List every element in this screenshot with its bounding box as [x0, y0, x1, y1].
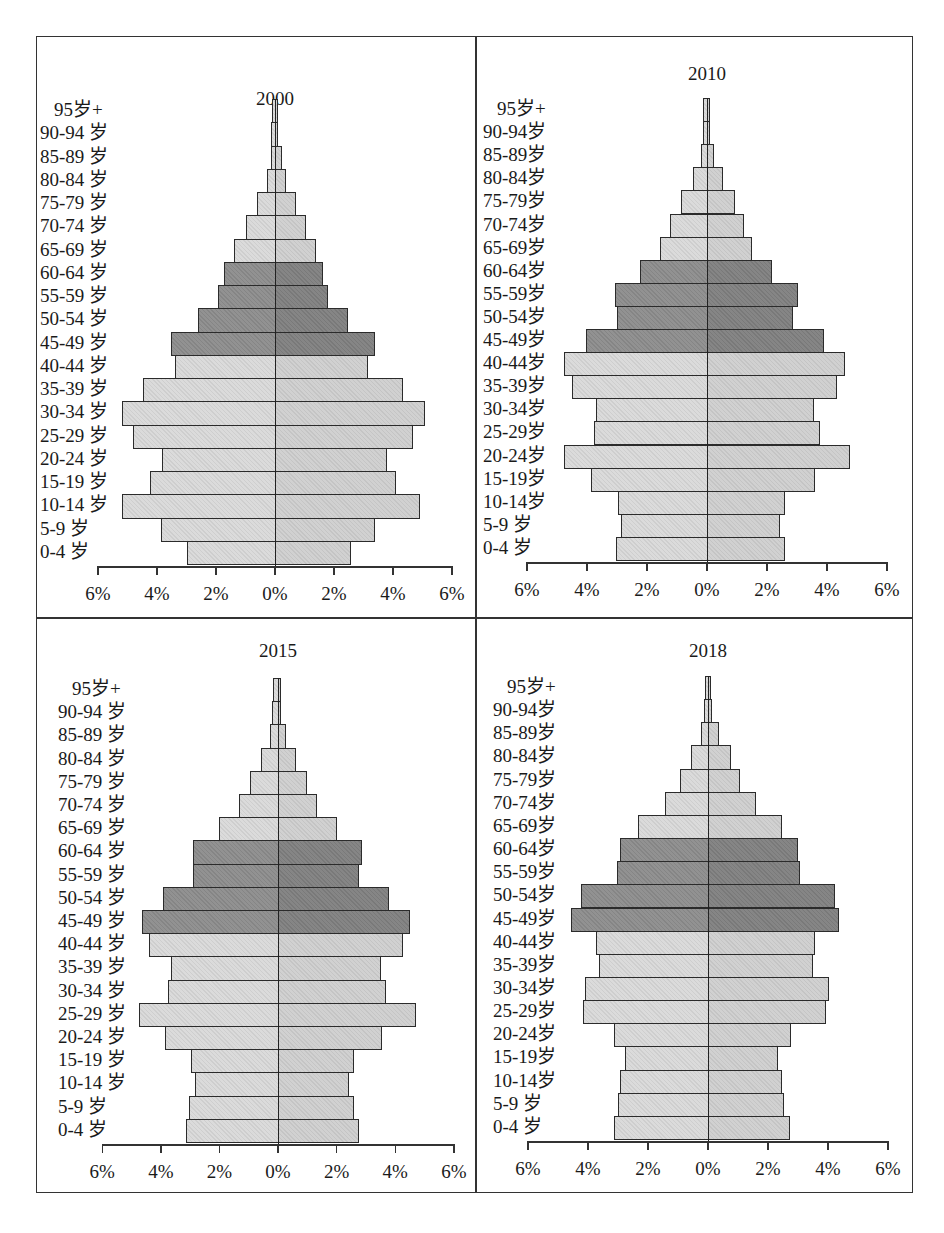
- bar-left: [614, 1023, 709, 1047]
- age-group-label: 40-44 岁: [40, 354, 108, 377]
- x-tick-label: 2%: [324, 1161, 349, 1183]
- bar-right: [278, 956, 381, 980]
- horizontal-divider: [36, 617, 913, 619]
- bar-left: [142, 910, 278, 934]
- age-group-label: 95岁+: [497, 97, 546, 120]
- bar-right: [707, 398, 814, 422]
- age-group-label: 15-19 岁: [40, 470, 108, 493]
- age-group-label: 70-74岁: [493, 791, 556, 814]
- x-tick-label: 6%: [514, 579, 539, 601]
- age-group-label: 50-54 岁: [40, 307, 108, 330]
- bar-right: [275, 494, 420, 518]
- bar-left: [165, 1026, 278, 1050]
- bar-right: [708, 1046, 778, 1070]
- bar-right: [275, 146, 282, 170]
- age-group-label: 55-59 岁: [58, 863, 126, 886]
- x-tick-label: 4%: [575, 1158, 600, 1180]
- bar-left: [187, 541, 276, 565]
- x-axis-tick: [395, 1144, 397, 1153]
- bar-right: [278, 864, 359, 888]
- bar-right: [278, 980, 386, 1004]
- bar-right: [278, 1026, 382, 1050]
- bar-left: [250, 771, 278, 795]
- bar-right: [707, 421, 820, 445]
- bar-right: [278, 933, 403, 957]
- bar-right: [708, 815, 782, 839]
- x-tick-label: 4%: [574, 579, 599, 601]
- age-group-label: 90-94 岁: [40, 121, 108, 144]
- bar-left: [625, 1046, 709, 1070]
- age-group-label: 45-49岁: [493, 907, 556, 930]
- bar-left: [596, 931, 709, 955]
- age-group-label: 25-29岁: [483, 420, 546, 443]
- bar-right: [707, 468, 815, 492]
- bar-left: [617, 306, 708, 330]
- bar-right: [275, 518, 375, 542]
- bar-left: [681, 190, 708, 214]
- bar-left: [564, 352, 708, 376]
- age-group-label: 95岁+: [72, 677, 121, 700]
- bar-right: [708, 838, 798, 862]
- age-group-label: 35-39岁: [483, 374, 546, 397]
- bar-left: [193, 840, 278, 864]
- bar-left: [583, 1000, 709, 1024]
- age-group-label: 90-94岁: [483, 120, 546, 143]
- bar-right: [707, 306, 793, 330]
- bar-right: [707, 167, 723, 191]
- x-axis-tick: [886, 562, 888, 571]
- vertical-divider: [475, 36, 477, 1193]
- bar-left: [615, 283, 708, 307]
- age-group-label: 15-19 岁: [58, 1048, 126, 1071]
- bar-right: [708, 884, 835, 908]
- bar-left: [591, 468, 708, 492]
- panel-title: 2018: [689, 640, 727, 662]
- x-axis-tick: [215, 566, 217, 575]
- age-group-label: 0-4 岁: [58, 1118, 107, 1141]
- bar-left: [234, 239, 276, 263]
- x-axis-tick: [526, 562, 528, 571]
- x-axis-tick: [392, 566, 394, 575]
- age-group-label: 0-4 岁: [493, 1115, 542, 1138]
- bar-left: [239, 794, 279, 818]
- age-group-label: 80-84 岁: [58, 747, 126, 770]
- x-tick-label: 4%: [383, 1161, 408, 1183]
- bar-right: [708, 745, 731, 769]
- age-group-label: 10-14岁: [483, 490, 546, 513]
- bar-left: [620, 1070, 709, 1094]
- x-axis-tick: [586, 562, 588, 571]
- age-group-label: 15-19岁: [493, 1045, 556, 1068]
- bar-left: [618, 491, 708, 515]
- x-tick-label: 0%: [262, 583, 287, 605]
- bar-left: [680, 769, 709, 793]
- bar-left: [691, 745, 709, 769]
- bar-left: [198, 308, 275, 332]
- bar-left: [638, 815, 709, 839]
- center-axis-line: [708, 676, 709, 1148]
- x-axis-tick: [887, 1141, 889, 1150]
- center-axis-line: [278, 678, 279, 1151]
- age-group-label: 10-14 岁: [40, 493, 108, 516]
- age-group-label: 65-69岁: [493, 814, 556, 837]
- x-axis-tick: [647, 1141, 649, 1150]
- age-group-label: 90-94岁: [493, 698, 556, 721]
- age-group-label: 45-49 岁: [40, 331, 108, 354]
- bar-left: [150, 471, 276, 495]
- age-group-label: 60-64岁: [493, 837, 556, 860]
- x-tick-label: 0%: [695, 1158, 720, 1180]
- x-tick-label: 2%: [754, 579, 779, 601]
- age-group-label: 25-29 岁: [40, 424, 108, 447]
- bar-right: [707, 329, 824, 353]
- bar-right: [708, 1093, 784, 1117]
- x-axis-tick: [767, 1141, 769, 1150]
- bar-right: [278, 1003, 416, 1027]
- age-group-label: 20-24岁: [483, 444, 546, 467]
- bar-left: [640, 260, 708, 284]
- bar-right: [275, 262, 323, 286]
- bar-right: [278, 771, 307, 795]
- bar-left: [171, 956, 279, 980]
- age-group-label: 75-79岁: [483, 189, 546, 212]
- x-axis-tick: [587, 1141, 589, 1150]
- age-group-label: 30-34岁: [483, 397, 546, 420]
- age-group-label: 65-69岁: [483, 236, 546, 259]
- panel-title: 2010: [688, 63, 726, 85]
